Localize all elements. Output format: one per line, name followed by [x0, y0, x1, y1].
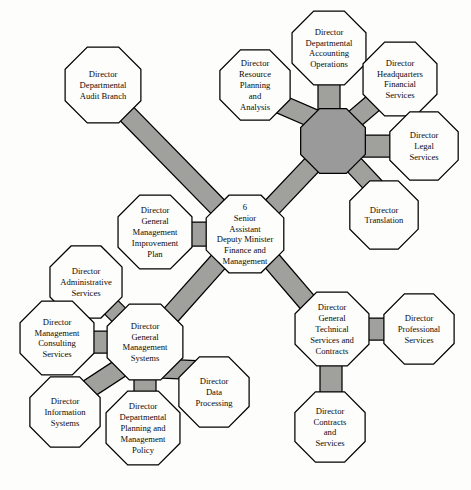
node-label-line: General — [141, 216, 169, 226]
node-label-line: Services — [71, 288, 101, 298]
node-label-line: Departmental — [80, 80, 127, 90]
organization-chart: 6SeniorAssistantDeputy MinisterFinance a… — [0, 0, 471, 490]
node-label-line: Contracts — [314, 417, 348, 427]
node-label-line: Director — [141, 205, 170, 215]
node-label-translation: DirectorTranslation — [365, 205, 405, 226]
node-label-line: Management — [223, 256, 268, 266]
node-label-line: Deputy Minister — [217, 234, 274, 244]
node-label-line: Services — [385, 90, 415, 100]
node-legal-services[interactable]: DirectorLegalServices — [390, 112, 458, 180]
node-label-line: Director — [316, 406, 345, 416]
node-gm-improvement-plan[interactable]: DirectorGeneralManagementImprovementPlan — [118, 195, 192, 269]
node-shape-accounting-hub — [301, 109, 366, 174]
node-label-line: 6 — [243, 202, 248, 212]
node-resource-planning[interactable]: DirectorResourcePlanningandAnalysis — [220, 50, 290, 120]
node-technical-services-hub[interactable]: DirectorGeneralTechnicalServices andCont… — [295, 292, 369, 366]
node-departmental-planning[interactable]: DirectorDepartmentalPlanning andManageme… — [106, 391, 180, 465]
node-label-line: Financial — [384, 79, 417, 89]
node-contracts-services[interactable]: DirectorContractsandServices — [295, 392, 365, 462]
node-label-line: Services — [42, 349, 72, 359]
node-label-line: Services — [315, 438, 345, 448]
node-label-line: Director — [51, 396, 80, 406]
node-label-line: Policy — [132, 445, 155, 455]
node-label-line: Accounting — [309, 48, 350, 58]
node-label-line: Consulting — [38, 338, 76, 348]
node-label-line: Planning — [240, 80, 271, 90]
node-label-line: Improvement — [132, 238, 179, 248]
node-label-line: Director — [89, 69, 118, 79]
node-label-line: Departmental — [120, 412, 167, 422]
node-label-line: Technical — [315, 324, 349, 334]
node-label-line: Legal — [414, 141, 434, 151]
node-audit-branch[interactable]: DirectorDepartmentalAudit Branch — [65, 47, 141, 123]
node-label-line: Director — [129, 401, 158, 411]
node-label-line: Assistant — [229, 224, 261, 234]
node-label-line: Administrative — [60, 277, 112, 287]
node-label-line: Senior — [234, 213, 257, 223]
node-label-line: Director — [72, 266, 101, 276]
node-label-line: Translation — [365, 215, 405, 225]
node-professional-services[interactable]: DirectorProfessionalServices — [384, 294, 454, 364]
node-label-resource-planning: DirectorResourcePlanningandAnalysis — [239, 58, 271, 111]
node-label-line: Director — [315, 27, 344, 37]
node-label-line: General — [131, 332, 159, 342]
node-label-line: Processing — [195, 398, 233, 408]
node-label-line: Director — [370, 205, 399, 215]
node-label-line: Contracts — [316, 346, 350, 356]
node-label-line: Operations — [310, 59, 348, 69]
node-label-line: Planning and — [120, 423, 166, 433]
node-label-line: Analysis — [240, 102, 271, 112]
node-accounting-operations[interactable]: DirectorDepartmentalAccountingOperations — [292, 11, 366, 85]
node-label-line: Departmental — [306, 38, 353, 48]
node-label-line: Director — [405, 313, 434, 323]
node-label-line: Services and — [310, 335, 354, 345]
node-label-line: Management — [35, 328, 80, 338]
node-label-line: Director — [386, 58, 415, 68]
node-label-line: Management — [133, 227, 178, 237]
node-label-line: Director — [131, 321, 160, 331]
node-label-line: and — [324, 427, 337, 437]
node-label-line: Professional — [398, 324, 441, 334]
node-label-line: Data — [206, 387, 222, 397]
node-label-line: Systems — [131, 353, 160, 363]
node-label-line: Director — [410, 130, 439, 140]
node-label-line: Management — [123, 342, 168, 352]
node-label-line: and — [249, 91, 262, 101]
node-management-consulting[interactable]: DirectorManagementConsultingServices — [20, 301, 94, 375]
node-label-line: Information — [44, 407, 86, 417]
node-label-line: Headquarters — [377, 69, 423, 79]
node-label-line: Director — [241, 58, 270, 68]
node-information-systems[interactable]: DirectorInformationSystems — [30, 377, 100, 447]
node-label-line: Director — [318, 302, 347, 312]
node-label-line: Plan — [147, 249, 163, 259]
node-accounting-hub[interactable] — [301, 109, 366, 174]
node-label-line: Finance and — [224, 245, 266, 255]
node-label-line: Systems — [51, 418, 80, 428]
node-translation[interactable]: DirectorTranslation — [350, 181, 418, 249]
node-label-line: Director — [43, 317, 72, 327]
node-gm-systems-hub[interactable]: DirectorGeneralManagementSystems — [107, 304, 183, 380]
node-headquarters-financial[interactable]: DirectorHeadquartersFinancialServices — [363, 42, 437, 116]
node-label-line: General — [318, 313, 346, 323]
node-label-line: Audit Branch — [80, 91, 127, 101]
node-center[interactable]: 6SeniorAssistantDeputy MinisterFinance a… — [206, 195, 284, 273]
node-data-processing[interactable]: DirectorDataProcessing — [179, 357, 249, 427]
node-label-line: Director — [200, 376, 229, 386]
node-label-line: Resource — [239, 69, 271, 79]
node-label-line: Services — [409, 152, 439, 162]
node-label-line: Management — [121, 434, 166, 444]
node-label-line: Services — [404, 335, 434, 345]
